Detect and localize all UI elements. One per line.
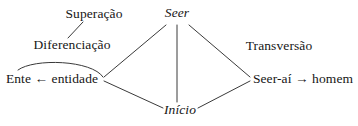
node-superacao-label: Superação <box>65 6 122 21</box>
edge-seer-left-vertex <box>104 25 166 77</box>
node-transversao: Transversão <box>246 39 313 53</box>
node-seer-ai-homem: Seer-aí → homem <box>253 72 353 86</box>
node-diferenciacao: Diferenciação <box>34 38 111 52</box>
node-seer-label: Seer <box>165 5 189 20</box>
node-seer-ai-homem-label: Seer-aí → homem <box>253 71 353 86</box>
node-inicio-label: Início <box>164 102 196 117</box>
edge-seer-right-vertex <box>189 25 250 77</box>
edge-left-vertex-inicio <box>104 81 163 108</box>
edge-superacao-diferenciacao <box>68 22 83 38</box>
node-diferenciacao-label: Diferenciação <box>34 37 111 52</box>
node-seer: Seer <box>165 6 189 20</box>
node-inicio: Início <box>164 103 196 117</box>
concept-diagram: Superação Seer Diferenciação Transversão… <box>0 0 358 126</box>
node-ente-entidade: Ente ← entidade <box>6 72 98 86</box>
edge-inicio-right-vertex <box>198 81 250 108</box>
node-ente-entidade-label: Ente ← entidade <box>6 71 98 86</box>
node-superacao: Superação <box>65 7 122 21</box>
node-transversao-label: Transversão <box>246 38 313 53</box>
